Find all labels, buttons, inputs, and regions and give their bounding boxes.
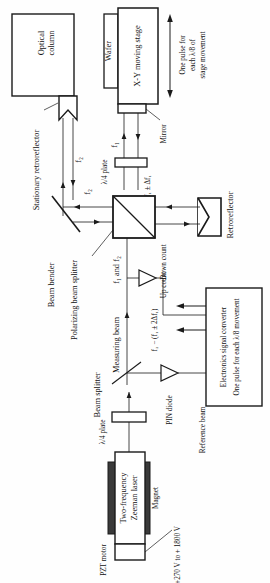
stage-movement-arrow-bottom (167, 90, 173, 98)
pzt-motor-label: PZT motor (100, 544, 108, 576)
up-count-arrowhead (176, 303, 184, 309)
magnet-label: Magnet (152, 487, 160, 509)
interferometer-schematic: Optical column Stationary retroreflector… (0, 0, 270, 583)
beam-arrow-right-2 (184, 222, 190, 227)
reference-beam-label: Reference beam (199, 406, 207, 453)
polarizing-beam-splitter-leader (92, 230, 113, 256)
laser-label-line2: Zeeman laser (130, 475, 139, 520)
beam-label-f2-upper: f₂ (74, 157, 83, 163)
mirror-leader (146, 109, 160, 120)
quarter-wave-plate-upper-label: λ/4 plate (101, 160, 109, 185)
quarter-wave-plate-lower-label: λ/4 plate (99, 420, 107, 445)
quarter-wave-plate-lower (112, 412, 146, 422)
diagram-canvas: Optical column Stationary retroreflector… (0, 0, 270, 583)
optical-column-label-line1: Optical (37, 30, 46, 55)
electronics-label-line1: Electronics signal converter (220, 306, 228, 387)
beam-arrow-right-1 (94, 220, 100, 225)
beam-f2-down-arrow (71, 180, 76, 186)
wafer-label: Wafer (104, 41, 113, 61)
beam-arrow-left-1 (74, 205, 80, 210)
pin-diode-triangle (161, 365, 178, 381)
pin-diode-label: PIN diode (166, 395, 174, 424)
retroreflector-label: Retroreflector (226, 191, 235, 238)
quarter-wave-plate-upper (115, 158, 147, 167)
xy-moving-stage-label: X-Y moving stage (133, 25, 142, 87)
electronics-label-line2: One pulse for each λ/8 movement (233, 298, 241, 395)
mirror-label: Mirror (160, 124, 168, 144)
beam-splitter-label: Beam splitter (93, 372, 102, 417)
polarizing-beam-splitter-label: Polarizing beam splitter (70, 260, 79, 340)
beam-label-f1-delta: f₁ ± Δf₁ (144, 175, 152, 197)
stationary-retroreflector-label: Stationary retroreflector (32, 129, 41, 210)
optical-column-label-line2: column (47, 30, 56, 56)
measuring-beam-arrow (125, 312, 130, 318)
stage-movement-arrow-top (167, 14, 173, 22)
beam-bender-mirror (52, 196, 80, 232)
beam-arrow-left-2 (166, 205, 172, 210)
beam-label-f1-upper: f₁ (110, 142, 119, 148)
measurement-photodetector-triangle (139, 270, 156, 286)
beam-f1-up-arrow (122, 133, 127, 139)
stationary-retroreflector-prism (59, 96, 77, 120)
mirror-box (118, 104, 146, 113)
stage-note-line2: each λ/8 of (189, 38, 197, 70)
stage-note-line1: One pulse for (179, 35, 187, 75)
beam-label-f2-lower: f₂ (83, 189, 92, 195)
pzt-motor-box (115, 544, 145, 560)
beam-f2-up-arrow (61, 182, 66, 188)
beat-signal-label: f₂ − (f₁ ± 2Δf₁) (151, 308, 159, 351)
down-count-label: Down count (160, 244, 168, 279)
down-count-arrowhead (176, 327, 184, 333)
laser-beam-arrow (127, 392, 132, 398)
stationary-retroreflector-leader (44, 103, 58, 110)
pzt-voltage-label: +270 V to + 1800 V (174, 525, 182, 583)
laser-label-line1: Two-frequency (119, 472, 128, 524)
measuring-beam-label: Measuring beam (112, 316, 121, 373)
stage-note-line3: stage movement (199, 32, 207, 79)
beam-bender-label: Beam bender (47, 263, 56, 308)
beam-label-f1-and-f2: f₁ and f₂ (112, 256, 121, 284)
beam-f1-down-arrow (136, 134, 141, 140)
